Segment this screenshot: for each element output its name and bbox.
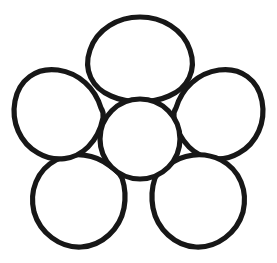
flower-center (100, 99, 180, 179)
petal-top (88, 17, 193, 102)
flower-drawing (0, 0, 277, 263)
artwork-canvas (0, 0, 277, 263)
